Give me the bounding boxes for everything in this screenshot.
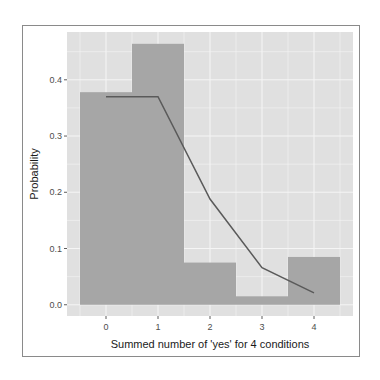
bar-4 — [288, 257, 340, 305]
x-tick-label: 0 — [103, 322, 108, 332]
x-axis: 01234 — [103, 316, 316, 332]
x-tick-label: 1 — [155, 322, 160, 332]
x-axis-title: Summed number of 'yes' for 4 conditions — [111, 338, 310, 350]
chart: 0.00.10.20.30.4 01234 Summed number of '… — [0, 0, 380, 380]
y-axis: 0.00.10.20.30.4 — [49, 75, 67, 310]
bar-1 — [132, 44, 184, 305]
x-tick-label: 3 — [259, 322, 264, 332]
x-tick-label: 4 — [311, 322, 316, 332]
bar-2 — [184, 263, 236, 305]
y-tick-label: 0.3 — [49, 131, 62, 141]
y-tick-label: 0.0 — [49, 300, 62, 310]
y-tick-label: 0.4 — [49, 75, 62, 85]
y-tick-label: 0.1 — [49, 244, 62, 254]
y-tick-label: 0.2 — [49, 187, 62, 197]
y-axis-title: Probability — [28, 148, 40, 200]
bar-3 — [236, 296, 288, 304]
bar-0 — [80, 92, 132, 305]
x-tick-label: 2 — [207, 322, 212, 332]
